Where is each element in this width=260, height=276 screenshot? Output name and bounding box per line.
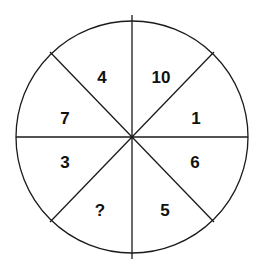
missing-value: ? (95, 201, 105, 220)
sector-value: 7 (60, 109, 69, 128)
sector-value: 6 (190, 153, 199, 172)
sector-value: 4 (97, 68, 107, 87)
sector-value: 10 (152, 68, 171, 87)
center-dot (131, 136, 134, 139)
sector-value: 3 (60, 153, 69, 172)
number-wheel-diagram: 4 10 7 1 3 6 ? 5 (0, 0, 260, 276)
sector-value: 5 (160, 201, 169, 220)
sector-value: 1 (191, 109, 200, 128)
